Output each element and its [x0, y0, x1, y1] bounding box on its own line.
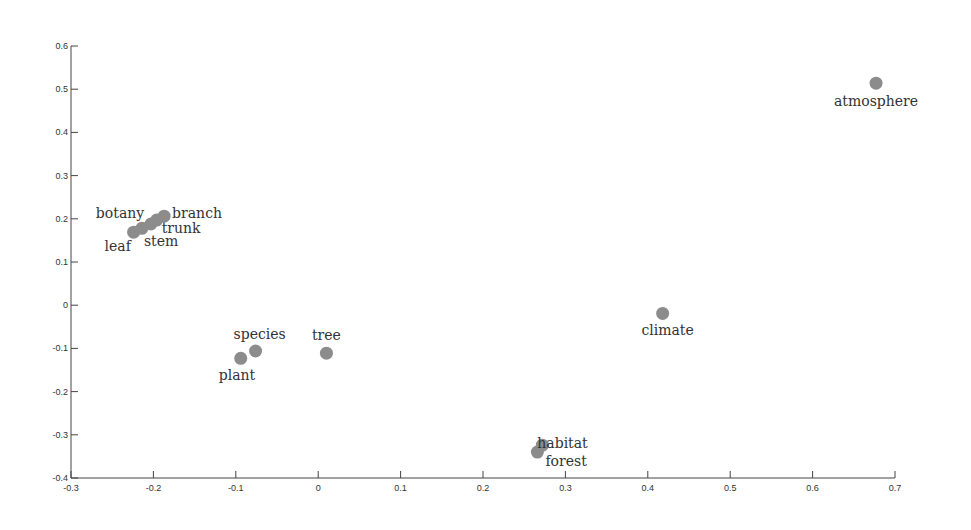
point-marker-species: [249, 344, 262, 357]
x-tick-label: -0.3: [63, 483, 79, 493]
point-label-leaf: leaf: [105, 238, 133, 254]
point-marker-plant: [234, 352, 247, 365]
x-tick-label: 0.2: [477, 483, 490, 493]
point-label-tree: tree: [312, 327, 341, 343]
axes: -0.3-0.2-0.100.10.20.30.40.50.60.70.60.5…: [52, 41, 901, 493]
x-tick-label: 0: [316, 483, 321, 493]
point-label-habitat: habitat: [537, 435, 588, 451]
point-label-botany: botany: [96, 205, 144, 221]
y-tick-label: 0.4: [55, 127, 68, 137]
x-tick-label: 0.6: [806, 483, 819, 493]
y-tick-label: -0.3: [52, 430, 68, 440]
x-tick-label: 0.4: [642, 483, 655, 493]
point-label-forest: forest: [545, 453, 587, 469]
y-tick-label: -0.1: [52, 343, 68, 353]
y-tick-label: 0.3: [55, 171, 68, 181]
x-tick-label: -0.1: [228, 483, 244, 493]
y-tick-label: 0.6: [55, 41, 68, 51]
point-label-atmosphere: atmosphere: [834, 93, 918, 109]
data-points: [127, 77, 882, 459]
x-tick-label: -0.2: [146, 483, 162, 493]
scatter-chart: -0.3-0.2-0.100.10.20.30.40.50.60.70.60.5…: [0, 0, 971, 530]
point-marker-atmosphere: [870, 77, 883, 90]
point-marker-tree: [320, 347, 333, 360]
y-tick-label: 0: [63, 300, 68, 310]
point-label-trunk: trunk: [162, 220, 201, 236]
x-tick-label: 0.1: [394, 483, 407, 493]
point-labels: leafbotanystemtrunkbranchplantspeciestre…: [96, 93, 918, 469]
point-label-branch: branch: [172, 205, 222, 221]
point-label-species: species: [234, 326, 286, 342]
y-tick-label: 0.2: [55, 214, 68, 224]
x-tick-label: 0.3: [559, 483, 572, 493]
point-marker-climate: [656, 307, 669, 320]
y-tick-label: -0.2: [52, 387, 68, 397]
x-tick-label: 0.5: [724, 483, 737, 493]
y-tick-label: 0.1: [55, 257, 68, 267]
y-tick-label: 0.5: [55, 84, 68, 94]
point-label-plant: plant: [219, 367, 256, 383]
point-label-climate: climate: [641, 322, 693, 338]
y-tick-label: -0.4: [52, 473, 68, 483]
x-tick-label: 0.7: [889, 483, 902, 493]
